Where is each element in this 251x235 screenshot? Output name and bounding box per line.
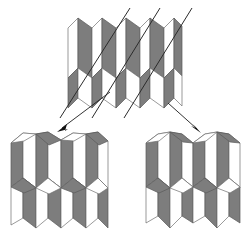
fold-column-5	[164, 18, 182, 108]
miura-ori-figure	[0, 0, 251, 235]
facet-dark	[150, 18, 164, 78]
facet-dark	[126, 18, 140, 78]
fold-column-2	[92, 18, 116, 108]
facet-light	[68, 18, 78, 78]
facet-dark	[78, 18, 92, 78]
panel-bottom-left-folded	[11, 132, 108, 228]
panel-bottom-right-folded	[146, 132, 240, 228]
fold-column-4	[140, 18, 164, 108]
fold-column-1	[68, 18, 92, 108]
facet-light	[164, 18, 174, 78]
fold-column-3	[116, 18, 140, 108]
facet-light	[92, 18, 102, 78]
